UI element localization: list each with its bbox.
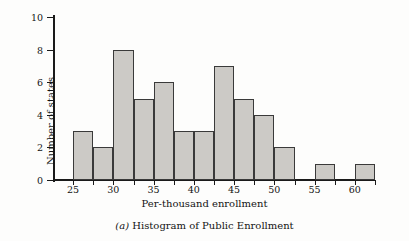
- x-tick-52.5: [295, 180, 296, 185]
- caption-identifier: (a): [115, 220, 129, 231]
- x-tick-label-45: 45: [228, 184, 240, 195]
- y-tick-8: [47, 50, 53, 51]
- x-tick-47.5: [254, 180, 255, 185]
- histogram-bar: [194, 131, 214, 180]
- x-tick-label-50: 50: [268, 184, 280, 195]
- histogram-bar: [315, 164, 335, 180]
- plot-area: 0246810: [53, 17, 375, 180]
- x-tick-27.5: [93, 180, 94, 185]
- y-axis-label: Number of states: [45, 76, 56, 164]
- histogram-bar: [174, 131, 194, 180]
- y-tick-label-4: 4: [37, 109, 43, 120]
- x-tick-57.5: [335, 180, 336, 185]
- x-axis-label: Per-thousand enrollment: [0, 198, 409, 209]
- histogram-bar: [234, 99, 254, 181]
- x-tick-label-60: 60: [349, 184, 361, 195]
- y-tick-label-0: 0: [37, 175, 43, 186]
- histogram-figure: 0246810 2530354045505560 Number of state…: [0, 0, 409, 241]
- y-tick-0: [47, 180, 53, 181]
- histogram-bar: [274, 147, 294, 180]
- y-tick-label-6: 6: [37, 77, 43, 88]
- x-tick-37.5: [174, 180, 175, 185]
- figure-caption: (a) Histogram of Public Enrollment: [0, 220, 409, 231]
- histogram-bar: [254, 115, 274, 180]
- x-tick-label-25: 25: [67, 184, 79, 195]
- x-tick-label-55: 55: [309, 184, 321, 195]
- x-tick-62.5: [375, 180, 376, 185]
- x-tick-label-30: 30: [107, 184, 119, 195]
- y-tick-label-8: 8: [37, 44, 43, 55]
- histogram-bar: [355, 164, 375, 180]
- histogram-bar: [154, 82, 174, 180]
- x-tick-42.5: [214, 180, 215, 185]
- x-tick-32.5: [134, 180, 135, 185]
- histogram-bar: [113, 50, 133, 180]
- histogram-bar: [134, 99, 154, 181]
- histogram-bar: [214, 66, 234, 180]
- x-tick-label-35: 35: [148, 184, 160, 195]
- x-tick-label-40: 40: [188, 184, 200, 195]
- caption-text: Histogram of Public Enrollment: [132, 220, 293, 231]
- y-tick-label-10: 10: [31, 12, 43, 23]
- y-tick-label-2: 2: [37, 142, 43, 153]
- histogram-bar: [73, 131, 93, 180]
- histogram-bar: [93, 147, 113, 180]
- y-tick-10: [47, 17, 53, 18]
